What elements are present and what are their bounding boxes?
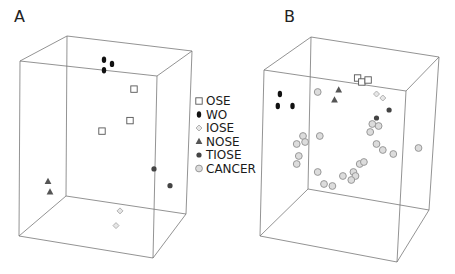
box-edge <box>19 61 20 236</box>
point-nose <box>47 188 54 194</box>
point-tiose <box>167 183 172 188</box>
box-edge <box>308 189 429 210</box>
point-ose <box>131 86 137 92</box>
point-cancer <box>314 169 321 176</box>
point-iose <box>380 95 386 101</box>
point-wo <box>102 67 106 73</box>
box-edge <box>66 36 67 196</box>
series-ose <box>99 86 137 134</box>
point-cancer <box>293 141 300 148</box>
series-wo <box>276 91 295 109</box>
point-ose <box>127 117 133 123</box>
legend: OSEWOIOSENOSETIOSECANCER <box>196 94 256 176</box>
box-edge <box>260 236 397 262</box>
box-edge <box>20 36 67 61</box>
point-iose <box>113 223 119 229</box>
legend-marker-tiose <box>196 152 201 157</box>
box-edge <box>20 61 157 76</box>
series-iose <box>374 91 386 101</box>
box-edge <box>66 196 186 214</box>
point-cancer <box>369 121 376 128</box>
box-edge <box>157 51 192 76</box>
point-cancer <box>321 181 328 188</box>
point-iose <box>117 208 123 214</box>
legend-item-tiose: TIOSE <box>196 148 241 162</box>
series-tiose <box>374 107 392 120</box>
point-wo <box>102 57 106 63</box>
legend-item-iose: IOSE <box>196 121 234 135</box>
point-cancer <box>302 139 309 146</box>
point-cancer <box>316 133 323 140</box>
point-cancer <box>293 161 300 168</box>
point-cancer <box>361 159 368 166</box>
panel-b: B <box>260 7 439 262</box>
box-edge <box>406 57 439 91</box>
panel-label-b: B <box>284 7 295 26</box>
point-ose <box>359 79 365 85</box>
point-wo <box>276 103 280 109</box>
legend-label: CANCER <box>206 162 256 176</box>
point-cancer <box>348 177 355 184</box>
legend-marker-wo <box>197 111 201 117</box>
legend-label: NOSE <box>206 135 240 149</box>
point-cancer <box>367 129 374 136</box>
point-cancer <box>340 173 347 180</box>
point-wo <box>290 103 294 109</box>
box-edge <box>397 210 429 262</box>
box-edge <box>260 70 264 236</box>
box-edge <box>308 37 311 189</box>
legend-label: IOSE <box>206 121 234 135</box>
figure: A B OSEWOIOSENOSETIOSECANCER <box>0 0 455 274</box>
legend-label: OSE <box>206 94 231 108</box>
box-edge <box>19 196 66 236</box>
point-cancer <box>375 123 382 130</box>
point-nose <box>335 86 342 92</box>
point-tiose <box>374 115 379 120</box>
point-nose <box>45 178 52 184</box>
point-tiose <box>387 107 392 112</box>
point-wo <box>278 91 282 97</box>
box-edge <box>153 214 186 258</box>
point-cancer <box>379 147 386 154</box>
point-cancer <box>390 151 397 158</box>
point-cancer <box>295 153 302 160</box>
legend-marker-cancer <box>196 165 203 172</box>
point-iose <box>374 91 380 97</box>
point-tiose <box>151 166 156 171</box>
legend-label: TIOSE <box>205 148 242 162</box>
box-edge <box>67 36 192 51</box>
legend-marker-nose <box>196 138 203 144</box>
series-iose <box>113 208 123 229</box>
box-edge <box>397 91 406 262</box>
legend-item-nose: NOSE <box>196 135 240 149</box>
legend-marker-iose <box>196 125 202 131</box>
point-cancer <box>329 183 336 190</box>
series-nose <box>331 86 342 102</box>
box-edges <box>260 37 439 262</box>
box-edge <box>186 51 192 214</box>
box-edge <box>264 37 311 70</box>
legend-item-cancer: CANCER <box>196 162 256 176</box>
legend-item-ose: OSE <box>196 94 231 108</box>
point-cancer <box>415 145 422 152</box>
panel-a: A <box>14 7 192 258</box>
point-cancer <box>314 89 321 96</box>
panel-label-a: A <box>14 7 25 26</box>
box-edge <box>264 70 406 91</box>
box-edge <box>429 57 439 210</box>
legend-item-wo: WO <box>197 108 228 122</box>
box-edge <box>260 189 308 236</box>
legend-label: WO <box>206 108 227 122</box>
point-wo <box>110 61 114 67</box>
point-cancer <box>373 141 380 148</box>
point-ose <box>99 128 105 134</box>
box-edge <box>19 236 153 258</box>
point-ose <box>365 77 371 83</box>
box-edge <box>311 37 439 57</box>
point-nose <box>331 96 338 102</box>
series-nose <box>45 178 54 195</box>
legend-marker-ose <box>196 98 202 104</box>
series-cancer <box>293 89 422 190</box>
